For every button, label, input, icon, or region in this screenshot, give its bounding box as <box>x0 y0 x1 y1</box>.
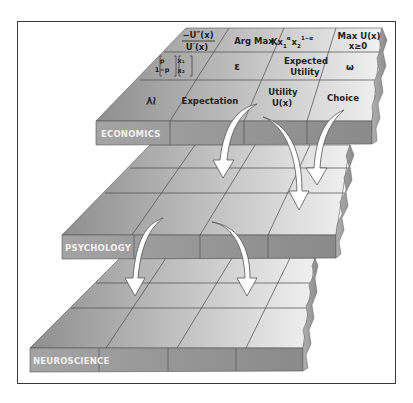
layer-neuroscience: NEUROSCIENCE <box>30 258 318 372</box>
cell-epsilon: ε <box>234 61 240 72</box>
cell-omega: ω <box>346 62 354 72</box>
svg-text:U′(x): U′(x) <box>186 42 209 52</box>
svg-text:Utility: Utility <box>290 67 320 77</box>
layer-psychology: PSYCHOLOGY <box>62 145 354 259</box>
svg-text:Utility: Utility <box>268 87 298 97</box>
svg-text:Max U(x): Max U(x) <box>338 31 381 41</box>
cell-preference-relation: ≿ <box>143 96 157 106</box>
neuroscience-label: NEUROSCIENCE <box>33 356 109 366</box>
neuroscience-surface <box>30 258 315 348</box>
svg-text:Expected: Expected <box>284 56 328 66</box>
svg-text:x₁: x₁ <box>177 57 185 65</box>
layer-economics: ECONOMICS −U″(x) U′(x) Arg Max Kx1αx21−α… <box>96 28 387 145</box>
cell-arg-max: Arg Max <box>234 36 274 46</box>
cell-choice: Choice <box>327 93 359 103</box>
svg-text:p: p <box>160 57 165 65</box>
svg-text:−U″(x): −U″(x) <box>182 30 213 40</box>
svg-text:U(x): U(x) <box>272 98 292 108</box>
psychology-label: PSYCHOLOGY <box>65 243 132 253</box>
svg-text:1−p: 1−p <box>155 66 170 74</box>
psychology-surface <box>62 145 350 235</box>
layer-diagram: NEUROSCIENCE PSYCHOLOGY <box>0 0 413 403</box>
cell-expectation: Expectation <box>182 96 239 106</box>
economics-label: ECONOMICS <box>101 129 161 139</box>
svg-text:x≥0: x≥0 <box>349 41 368 51</box>
svg-text:x₂: x₂ <box>177 67 185 75</box>
